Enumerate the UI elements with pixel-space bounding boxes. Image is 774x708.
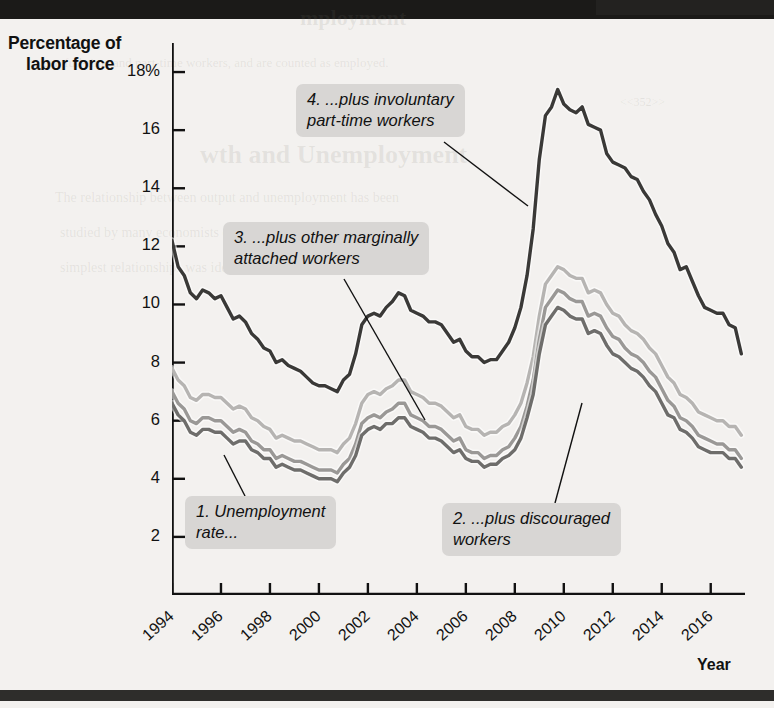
y-tick-label: 8 [90, 352, 160, 371]
y-tick-label: 6 [90, 410, 160, 429]
x-tick-label: 2004 [384, 607, 422, 644]
y-tick-marks [172, 72, 185, 537]
leader-line-4 [444, 142, 528, 206]
x-axis-title: Year [697, 656, 731, 674]
x-tick-label: 2014 [629, 607, 667, 644]
x-tick-label: 2008 [482, 607, 520, 644]
x-tick-label: 1998 [237, 607, 275, 644]
leader-line-1 [224, 455, 245, 496]
y-tick-label: 16 [90, 119, 160, 138]
y-tick-label: 10 [90, 293, 160, 312]
page-bottom-band [0, 690, 774, 701]
x-tick-label: 2006 [433, 607, 471, 644]
x-tick-label: 2010 [531, 607, 569, 644]
leader-line-2 [555, 403, 582, 503]
page-top-band-tail [596, 0, 774, 15]
x-tick-label: 1994 [139, 607, 177, 644]
annotation-callout-1: 1. Unemployment rate... [185, 496, 336, 549]
page-bottom-margin [0, 701, 774, 708]
y-tick-label: 12 [90, 235, 160, 254]
y-tick-label: 14 [90, 177, 160, 196]
y-tick-label: 4 [90, 468, 160, 487]
x-tick-label: 2000 [286, 607, 324, 644]
y-tick-label: 2 [90, 526, 160, 545]
annotation-callout-2: 2. ...plus discouraged workers [442, 503, 621, 556]
annotation-callout-3: 3. ...plus other marginally attached wor… [223, 222, 429, 275]
y-axis-title-line1: Percentage of [8, 33, 121, 53]
annotation-leader-lines [224, 142, 582, 503]
chart-page: mployment tween full-time and part-time … [0, 0, 774, 708]
annotation-callout-4: 4. ...plus involuntary part-time workers [296, 84, 465, 137]
x-tick-label: 2002 [335, 607, 373, 644]
y-tick-label: 18% [90, 61, 160, 80]
x-tick-label: 1996 [188, 607, 226, 644]
series-halo [172, 267, 741, 453]
x-tick-label: 2016 [678, 607, 716, 644]
x-tick-label: 2012 [580, 607, 618, 644]
